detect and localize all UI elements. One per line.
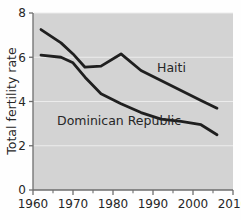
fertility-rate-line-chart: 02468 196019701980199020002010 HaitiDomi… (0, 0, 241, 220)
x-ticks-group (33, 190, 233, 195)
chart-svg: 02468 196019701980199020002010 HaitiDomi… (0, 0, 241, 220)
x-tick-label: 1960 (18, 197, 49, 211)
series-label-dominican-republic: Dominican Republic (57, 113, 181, 128)
x-tick-label: 2010 (218, 197, 241, 211)
x-tick-label: 1980 (98, 197, 129, 211)
y-tick-label: 0 (18, 183, 26, 197)
y-tick-label: 6 (18, 51, 26, 65)
y-tick-label: 4 (18, 95, 26, 109)
y-axis-title-group: Total fertility rate (4, 47, 19, 156)
y-tick-label: 2 (18, 139, 26, 153)
x-tick-label: 2000 (178, 197, 209, 211)
y-tick-label: 8 (18, 6, 26, 20)
x-tick-label: 1970 (58, 197, 89, 211)
y-ticklabels-group: 02468 (18, 6, 26, 197)
y-axis-title: Total fertility rate (4, 47, 19, 156)
series-label-haiti: Haiti (157, 60, 186, 75)
x-ticklabels-group: 196019701980199020002010 (18, 197, 241, 211)
x-tick-label: 1990 (138, 197, 169, 211)
